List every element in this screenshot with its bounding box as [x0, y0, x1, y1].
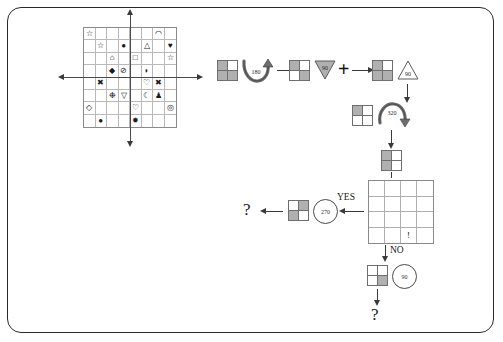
symbol-cell	[130, 40, 142, 52]
diagram-canvas: ☆◠☆●△♥⌂□☆◆⊘◗✖♡✖❉▽☾♟◇♡◎●✹ 180 90 +	[0, 0, 503, 342]
symbol-cell	[153, 65, 165, 77]
cell-br	[378, 276, 388, 286]
symbol-cell	[119, 115, 131, 127]
cell-bl	[290, 71, 300, 81]
cell-br	[392, 161, 402, 171]
symbol-glyph: ●	[121, 42, 126, 50]
symbol-glyph: ♡	[143, 79, 150, 87]
arrow-yes-head-icon	[339, 208, 345, 214]
decision-cell	[401, 197, 417, 213]
symbol-glyph: ☆	[167, 54, 174, 62]
cell-tr	[383, 61, 393, 71]
symbol-cell	[119, 53, 131, 65]
cell-tl	[373, 61, 383, 71]
grid-step-1	[217, 60, 238, 81]
symbol-glyph: ◎	[167, 104, 174, 112]
decision-cell	[417, 181, 433, 197]
cell-tr	[299, 201, 309, 211]
symbol-glyph: ◠	[155, 30, 162, 38]
cell-br	[363, 116, 373, 126]
symbol-cell	[107, 28, 119, 40]
axis-arrow-right-icon	[197, 74, 203, 80]
symbol-cell	[107, 40, 119, 52]
question-no: ?	[371, 305, 379, 325]
cell-tr	[228, 61, 238, 71]
grid-yes-result	[288, 200, 309, 221]
rotate-icon-320: 320	[376, 101, 410, 129]
symbol-cell: ☆	[96, 40, 108, 52]
cell-br	[383, 71, 393, 81]
symbol-cell: ❉	[107, 90, 119, 102]
axis-arrow-up-icon	[127, 9, 133, 15]
symbol-cell	[153, 115, 165, 127]
symbol-cell	[84, 65, 96, 77]
symbol-glyph: ◆	[109, 67, 115, 75]
symbol-cell: ♡	[142, 78, 154, 90]
symbol-glyph: ✹	[132, 117, 139, 125]
symbol-cell: ✖	[96, 78, 108, 90]
symbol-cell	[142, 115, 154, 127]
symbol-cell	[119, 78, 131, 90]
decision-cell	[417, 228, 433, 244]
axis-arrow-left-icon	[58, 74, 64, 80]
decision-cell	[417, 197, 433, 213]
symbol-cell	[96, 90, 108, 102]
decision-cell	[417, 212, 433, 228]
cell-br	[228, 71, 238, 81]
symbol-cell	[130, 65, 142, 77]
symbol-cell	[96, 53, 108, 65]
decision-cell	[369, 181, 385, 197]
question-yes: ?	[243, 200, 251, 220]
symbol-glyph: ♟	[155, 92, 162, 100]
arrow-step4-to-step5-head-icon	[388, 143, 394, 149]
symbol-cell: ✖	[153, 78, 165, 90]
symbol-cell: ♥	[165, 40, 177, 52]
symbol-cell	[142, 53, 154, 65]
symbol-cell	[153, 53, 165, 65]
cell-bl	[353, 116, 363, 126]
symbol-cell: ●	[119, 40, 131, 52]
axis-arrow-down-icon	[127, 141, 133, 147]
cell-bl	[218, 71, 228, 81]
symbol-cell: ◇	[84, 102, 96, 114]
grid-no-result	[367, 265, 388, 286]
arrow-yes-result-head-icon	[260, 208, 266, 214]
symbol-glyph: ◇	[86, 104, 92, 112]
cell-tr	[363, 106, 373, 116]
symbol-cell	[107, 115, 119, 127]
symbol-cell: ♡	[130, 102, 142, 114]
cell-tr	[392, 151, 402, 161]
symbol-cell	[130, 78, 142, 90]
symbol-glyph: ♡	[132, 104, 139, 112]
arrow-step4-to-step5-line	[391, 130, 392, 144]
symbol-glyph: ❉	[109, 92, 116, 100]
symbol-glyph: ♥	[168, 42, 173, 50]
cell-tl	[218, 61, 228, 71]
decision-cell	[369, 197, 385, 213]
symbol-cell	[119, 28, 131, 40]
symbol-cell	[165, 28, 177, 40]
symbol-cell: ●	[96, 115, 108, 127]
cell-tl	[290, 61, 300, 71]
symbol-cell: ♟	[153, 90, 165, 102]
symbol-glyph: ⌂	[110, 54, 115, 62]
decision-cell	[385, 228, 401, 244]
symbol-cell	[96, 28, 108, 40]
symbol-glyph: ⊘	[120, 67, 127, 75]
symbol-cell	[84, 53, 96, 65]
cell-tr	[378, 266, 388, 276]
symbol-cell: ◆	[107, 65, 119, 77]
triangle-down-label: 90	[322, 65, 328, 71]
symbol-cell: ⊘	[119, 65, 131, 77]
rotate-badge-320-label: 320	[388, 110, 397, 116]
symbol-cell	[165, 78, 177, 90]
grid-step-3	[372, 60, 393, 81]
decision-cell	[385, 212, 401, 228]
symbol-cell: ◎	[165, 102, 177, 114]
cell-tr	[300, 61, 310, 71]
arrow-step2-to-step3-line	[352, 70, 368, 71]
symbol-cell	[107, 102, 119, 114]
symbol-cell	[96, 65, 108, 77]
circle-90: 90	[392, 264, 417, 289]
arrow-no-head-icon	[382, 256, 388, 262]
